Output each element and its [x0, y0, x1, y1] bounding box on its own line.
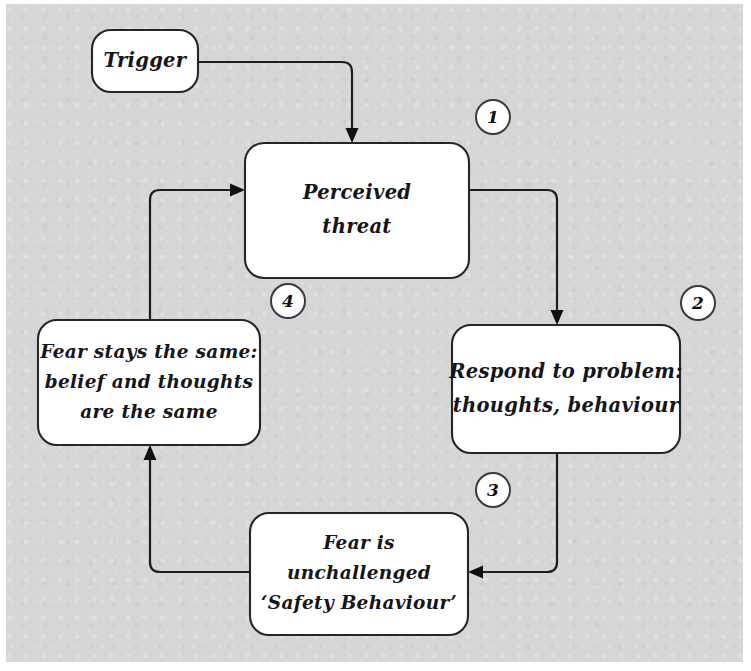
- arrowhead-icon: [230, 184, 245, 197]
- step-marker-4[interactable]: 4: [271, 284, 305, 318]
- node-shape: [452, 325, 680, 453]
- node-label-line: Perceived: [302, 181, 412, 204]
- step-marker-3[interactable]: 3: [476, 473, 510, 507]
- node-trigger[interactable]: Trigger: [92, 30, 198, 92]
- step-marker-label: 2: [691, 293, 704, 313]
- diagram-canvas: TriggerPerceivedthreatRespond to problem…: [0, 0, 751, 671]
- node-label-line: Respond to problem:: [448, 360, 683, 383]
- node-perceived-threat[interactable]: Perceivedthreat: [245, 143, 469, 278]
- node-respond-to-problem[interactable]: Respond to problem:thoughts, behaviour: [448, 325, 683, 453]
- connector-line: [469, 190, 557, 314]
- node-shape: [245, 143, 469, 278]
- node-label-line: Fear is: [322, 532, 395, 553]
- node-label-line: Trigger: [104, 49, 188, 72]
- connector-respond-to-fear-unchallenged: [468, 453, 557, 579]
- connector-fear-unchallenged-to-fear-stays: [144, 445, 251, 572]
- node-label-line: thoughts, behaviour: [453, 394, 681, 417]
- connector-line: [150, 456, 250, 572]
- arrowhead-icon: [468, 566, 483, 579]
- connector-line: [150, 190, 234, 320]
- node-fear-unchallenged[interactable]: Fear isunchallenged‘Safety Behaviour’: [250, 513, 468, 635]
- node-label-line: ‘Safety Behaviour’: [261, 592, 457, 613]
- node-fear-stays-same[interactable]: Fear stays the same:belief and thoughtsa…: [38, 320, 260, 445]
- fear-cycle-flowchart: TriggerPerceivedthreatRespond to problem…: [0, 0, 751, 671]
- step-marker-label: 1: [487, 107, 499, 127]
- arrowhead-icon: [144, 445, 157, 460]
- node-label-line: Fear stays the same:: [39, 341, 257, 362]
- node-label-line: are the same: [80, 401, 218, 422]
- arrowhead-icon: [551, 310, 564, 325]
- connector-trigger-to-perceived-threat: [198, 62, 359, 143]
- arrowhead-icon: [346, 128, 359, 143]
- step-marker-2[interactable]: 2: [681, 286, 715, 320]
- connector-perceived-threat-to-respond: [469, 190, 564, 325]
- connector-line: [198, 62, 352, 132]
- step-marker-label: 3: [487, 480, 499, 500]
- node-label-line: threat: [322, 215, 391, 238]
- connector-line: [479, 453, 557, 572]
- connector-fear-stays-to-perceived-threat: [150, 184, 245, 321]
- node-label-line: belief and thoughts: [45, 371, 254, 392]
- step-marker-label: 4: [282, 291, 294, 311]
- node-label-line: unchallenged: [287, 562, 431, 583]
- step-marker-1[interactable]: 1: [476, 100, 510, 134]
